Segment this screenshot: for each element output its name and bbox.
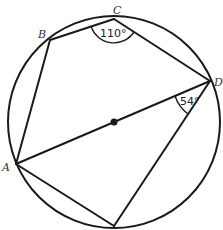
angle-label-c: 110° [100,27,127,40]
geometry-diagram: C B D A 110° 54° [0,0,223,230]
segment-ab [16,40,50,164]
label-d: D [213,76,223,89]
label-c: C [113,4,122,17]
angle-label-d: 54° [180,95,200,108]
center-point [111,119,118,126]
label-a: A [1,161,10,174]
label-b: B [37,28,46,41]
